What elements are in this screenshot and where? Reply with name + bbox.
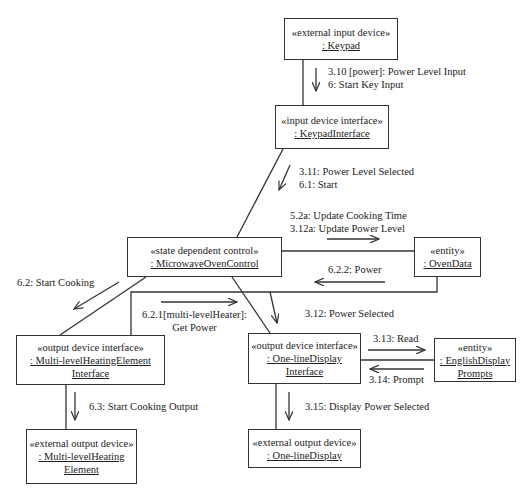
message-text: 6.1: Start	[299, 179, 414, 192]
object-name: : One-lineDisplay	[267, 449, 342, 462]
arrow-down-left-icon	[279, 165, 290, 190]
object-name: Interface	[286, 365, 323, 378]
message-label: 3.11: Power Level Selected 6.1: Start	[299, 166, 414, 191]
message-text: 5.2a: Update Cooking Time	[290, 210, 407, 223]
message-label: 3.13: Read	[373, 333, 419, 346]
object-name: : EnglishDisplay	[440, 354, 510, 367]
stereotype: «output device interface»	[251, 339, 358, 352]
object-multilevel-heating-interface[interactable]: «output device interface» : Multi-levelH…	[16, 335, 165, 385]
message-text: 6: Start Key Input	[328, 79, 466, 92]
message-text: Get Power	[142, 322, 247, 335]
object-name: : Multi-levelHeatingElement	[30, 354, 151, 367]
object-name: Prompts	[457, 367, 492, 380]
message-text: 3.13: Read	[373, 333, 419, 346]
object-name: : OvenData	[423, 257, 471, 270]
message-label: 3.14: Prompt	[369, 374, 424, 387]
stereotype: «external output device»	[253, 436, 357, 449]
message-text: 6.2: Start Cooking	[17, 277, 94, 290]
message-text: 3.12a: Update Power Level	[290, 223, 407, 236]
object-name: Element	[64, 463, 99, 476]
message-label: 6.2: Start Cooking	[17, 277, 94, 290]
stereotype: «entity»	[458, 341, 492, 354]
object-oneline-display-interface[interactable]: «output device interface» : One-lineDisp…	[248, 333, 361, 384]
stereotype: «state dependent control»	[151, 244, 259, 257]
object-keypad-interface[interactable]: «input device interface» : KeypadInterfa…	[275, 105, 389, 149]
stereotype: «input device interface»	[281, 114, 382, 127]
object-english-display-prompts[interactable]: «entity» : EnglishDisplay Prompts	[434, 338, 516, 382]
message-text: 3.12: Power Selected	[305, 308, 394, 321]
message-label: 6.2.2: Power	[328, 264, 381, 277]
message-text: 6.2.2: Power	[328, 264, 381, 277]
message-text: 6.3: Start Cooking Output	[89, 401, 198, 414]
object-multilevel-heating-element[interactable]: «external output device» : Multi-levelHe…	[26, 429, 137, 484]
link-interface-control	[237, 149, 283, 237]
message-text: 3.14: Prompt	[369, 374, 424, 387]
stereotype: «external input device»	[292, 26, 391, 39]
arrow-down-icon	[270, 292, 277, 323]
message-label: 5.2a: Update Cooking Time 3.12a: Update …	[290, 210, 407, 235]
message-label: 6.3: Start Cooking Output	[89, 401, 198, 414]
object-name: : MicrowaveOvenControl	[150, 257, 258, 270]
object-oneline-display[interactable]: «external output device» : One-lineDispl…	[248, 429, 361, 468]
object-microwave-oven-control[interactable]: «state dependent control» : MicrowaveOve…	[127, 237, 282, 277]
stereotype: «entity»	[430, 244, 464, 257]
object-name: : Multi-levelHeating	[38, 450, 124, 463]
message-text: 3.10 [power]: Power Level Input	[328, 66, 466, 79]
object-name: Interface	[72, 367, 109, 380]
message-text: 6.2.1[multi-levelHeater]:	[142, 309, 247, 322]
object-oven-data[interactable]: «entity» : OvenData	[414, 237, 481, 277]
message-text: 3.15: Display Power Selected	[305, 401, 429, 414]
message-label: 3.12: Power Selected	[305, 308, 394, 321]
message-label: 6.2.1[multi-levelHeater]: Get Power	[142, 309, 247, 334]
message-label: 3.10 [power]: Power Level Input 6: Start…	[328, 66, 466, 91]
stereotype: «external output device»	[30, 437, 134, 450]
object-name: : One-lineDisplay	[267, 352, 342, 365]
object-name: : Keypad	[322, 39, 360, 52]
message-text: 3.11: Power Level Selected	[299, 166, 414, 179]
stereotype: «output device interface»	[37, 341, 144, 354]
object-keypad[interactable]: «external input device» : Keypad	[284, 18, 398, 60]
message-label: 3.15: Display Power Selected	[305, 401, 429, 414]
object-name: : KeypadInterface	[294, 127, 370, 140]
